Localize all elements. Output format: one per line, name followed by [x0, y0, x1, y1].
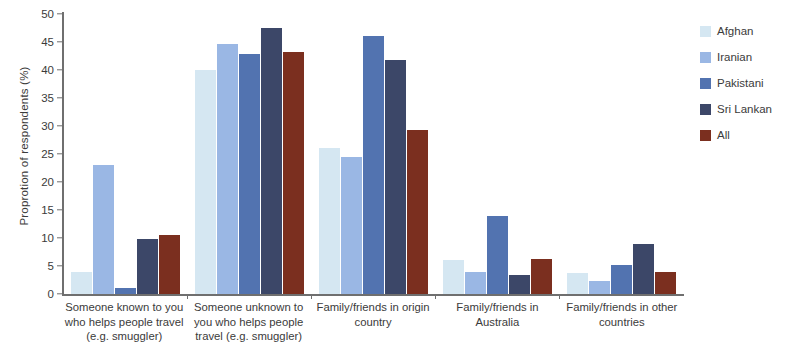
bar-group — [63, 14, 187, 294]
bar[interactable] — [195, 70, 216, 294]
y-axis-tick-mark — [57, 41, 62, 42]
legend-swatch-icon — [700, 26, 711, 37]
y-axis-tick-label: 30 — [28, 120, 54, 132]
x-axis-label: Family/friends in othercountries — [560, 300, 684, 344]
bar[interactable] — [217, 44, 238, 294]
y-axis-tick-mark — [57, 13, 62, 14]
bar-group — [559, 14, 683, 294]
legend-item[interactable]: Pakistani — [700, 70, 785, 96]
y-axis-tick-mark — [57, 153, 62, 154]
bar[interactable] — [567, 273, 588, 294]
legend-swatch-icon — [700, 52, 711, 63]
x-axis-label: Family/friends inAustralia — [435, 300, 559, 344]
y-axis-tick-label: 50 — [28, 8, 54, 20]
bar[interactable] — [239, 54, 260, 294]
bar[interactable] — [509, 275, 530, 294]
legend-label: Afghan — [717, 25, 753, 37]
y-axis-tick-mark — [57, 265, 62, 266]
bar[interactable] — [655, 272, 676, 294]
legend-swatch-icon — [700, 78, 711, 89]
x-axis-label-line: Family/friends in — [437, 300, 557, 315]
y-axis-tick-mark — [57, 97, 62, 98]
bar[interactable] — [363, 36, 384, 294]
bar-chart: Proprotion of respondents (%) 0510152025… — [0, 0, 785, 352]
x-axis-label-line: Family/friends in other — [562, 300, 682, 315]
legend-item[interactable]: All — [700, 122, 785, 148]
y-axis-tick-label: 5 — [28, 260, 54, 272]
x-axis-label-line: you who helps people — [188, 315, 308, 330]
y-axis-tick-label: 20 — [28, 176, 54, 188]
y-axis-tick-mark — [57, 125, 62, 126]
x-axis-label-line: travel (e.g. smuggler) — [188, 329, 308, 344]
y-axis-title: Proprotion of respondents (%) — [18, 26, 30, 266]
bar[interactable] — [93, 165, 114, 294]
bar[interactable] — [465, 272, 486, 294]
y-axis-tick-label: 10 — [28, 232, 54, 244]
y-axis-tick-label: 35 — [28, 92, 54, 104]
x-axis-line — [62, 294, 684, 296]
bar[interactable] — [589, 281, 610, 294]
x-axis-tick-mark — [311, 294, 312, 299]
legend-label: Iranian — [717, 51, 752, 63]
y-axis-tick-label: 40 — [28, 64, 54, 76]
x-axis-label: Family/friends in origincountry — [311, 300, 435, 344]
x-axis-label-line: countries — [562, 315, 682, 330]
bar[interactable] — [611, 265, 632, 294]
legend-item[interactable]: Iranian — [700, 44, 785, 70]
bar[interactable] — [443, 260, 464, 294]
y-axis-tick-label: 15 — [28, 204, 54, 216]
x-axis-label-line: Australia — [437, 315, 557, 330]
bar-group — [435, 14, 559, 294]
legend-swatch-icon — [700, 104, 711, 115]
bar[interactable] — [159, 235, 180, 294]
bar[interactable] — [115, 288, 136, 294]
x-axis-label: Someone known to youwho helps people tra… — [62, 300, 186, 344]
legend-swatch-icon — [700, 130, 711, 141]
y-axis-tick-mark — [57, 181, 62, 182]
bar[interactable] — [487, 216, 508, 294]
y-axis-tick-mark — [57, 209, 62, 210]
x-axis-label-line: Someone known to you — [64, 300, 184, 315]
chart-legend: AfghanIranianPakistaniSri LankanAll — [700, 18, 785, 148]
x-axis-label-line: country — [313, 315, 433, 330]
bar[interactable] — [531, 259, 552, 294]
bar[interactable] — [261, 28, 282, 294]
legend-label: Sri Lankan — [717, 103, 772, 115]
y-axis-tick-mark — [57, 293, 62, 294]
legend-label: Pakistani — [717, 77, 764, 89]
bar[interactable] — [319, 148, 340, 294]
y-axis-tick-label: 0 — [28, 288, 54, 300]
bar-group — [311, 14, 435, 294]
x-axis-tick-mark — [187, 294, 188, 299]
bar[interactable] — [71, 272, 92, 294]
y-axis-tick-label: 25 — [28, 148, 54, 160]
bar-group — [187, 14, 311, 294]
bar[interactable] — [633, 244, 654, 294]
bar[interactable] — [407, 130, 428, 294]
x-axis-label-line: who helps people travel — [64, 315, 184, 330]
legend-item[interactable]: Afghan — [700, 18, 785, 44]
bar[interactable] — [385, 60, 406, 294]
bar[interactable] — [137, 239, 158, 294]
y-axis-tick-mark — [57, 69, 62, 70]
x-axis-label-line: (e.g. smuggler) — [64, 329, 184, 344]
plot-area: 05101520253035404550 — [62, 14, 682, 294]
x-axis-tick-mark — [435, 294, 436, 299]
bar-groups — [63, 14, 683, 294]
bar[interactable] — [283, 52, 304, 294]
x-axis-label-line: Someone unknown to — [188, 300, 308, 315]
bar[interactable] — [341, 157, 362, 294]
legend-item[interactable]: Sri Lankan — [700, 96, 785, 122]
x-axis-label-line: Family/friends in origin — [313, 300, 433, 315]
x-axis-label: Someone unknown toyou who helps peopletr… — [186, 300, 310, 344]
x-axis-labels: Someone known to youwho helps people tra… — [62, 300, 684, 344]
y-axis-tick-mark — [57, 237, 62, 238]
y-axis-tick-label: 45 — [28, 36, 54, 48]
x-axis-tick-mark — [559, 294, 560, 299]
legend-label: All — [717, 129, 730, 141]
